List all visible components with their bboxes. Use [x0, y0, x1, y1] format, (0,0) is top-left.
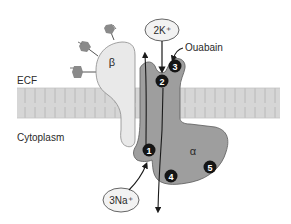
sodium-ion: 3Na⁺ — [103, 188, 139, 212]
site-4: 4 — [165, 170, 178, 183]
site-1: 1 — [143, 144, 156, 157]
site-5: 5 — [204, 161, 217, 174]
beta-label: β — [109, 56, 115, 68]
svg-text:4: 4 — [168, 172, 173, 182]
svg-text:3Na⁺: 3Na⁺ — [109, 195, 132, 206]
ouabain-label: Ouabain — [185, 42, 223, 53]
svg-text:1: 1 — [146, 146, 151, 156]
na-k-atpase-diagram: ECF Cytoplasm β α 2K⁺ Ouabain — [0, 0, 291, 224]
alpha-label: α — [190, 145, 197, 157]
site-2: 2 — [156, 75, 169, 88]
glycan-icon — [70, 66, 83, 78]
glycan-icon — [104, 24, 116, 34]
svg-text:5: 5 — [207, 163, 212, 173]
na-influx-arrow — [129, 165, 146, 190]
glycan-icon — [78, 41, 91, 52]
ecf-label: ECF — [17, 75, 37, 86]
potassium-ion: 2K⁺ — [145, 19, 179, 41]
site-3: 3 — [169, 60, 182, 73]
svg-text:3: 3 — [172, 62, 177, 72]
cytoplasm-label: Cytoplasm — [17, 132, 64, 143]
svg-text:2: 2 — [159, 77, 164, 87]
ouabain-arrow — [173, 48, 183, 59]
svg-text:2K⁺: 2K⁺ — [153, 25, 170, 36]
